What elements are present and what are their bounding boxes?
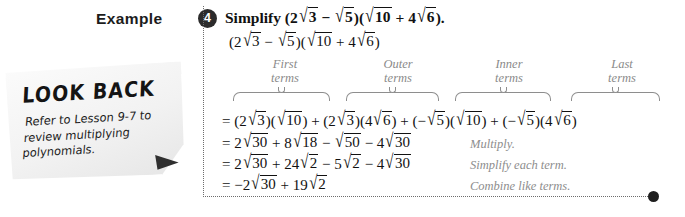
s3-24: 24 [284,156,299,172]
s3-4: 4 [377,156,385,172]
example-content: Simplify (2√3 − √5)(√10 + 4√6). (2√3 − √… [222,0,685,217]
s1-sqrt-3a: √3 [247,112,266,130]
foil-outer-line1: Outer [383,57,412,71]
s2-sqrt-30b: √30 [384,134,411,152]
brace-outer-terms [346,92,439,101]
minus-1: − [321,9,330,26]
problem-statement: Simplify (2√3 − √5)(√10 + 4√6). [225,8,445,27]
foil-label-last: Last terms [585,58,659,85]
foil-inner-line2: terms [472,72,546,86]
sqrt-5-title: √5 [334,8,354,27]
s2-4: 4 [377,135,385,151]
eq-4: = [222,177,230,193]
sqrt-10-title: √10 [364,8,391,27]
s3-sqrt-30a: √30 [242,155,269,173]
plus-8: + [281,177,289,193]
sqrt-6-restate: √6 [356,33,375,51]
s3-5: 5 [334,156,342,172]
coef-2a: 2 [290,9,298,26]
s3-2: 2 [234,156,242,172]
s1-sqrt-6b: √6 [553,112,572,130]
plus-6: + [272,135,280,151]
plus-4: + [400,113,408,129]
minus-8: − [365,156,373,172]
step-note-4: Combine like terms. [470,179,570,194]
example-page: Example 4 LOOK BACK Refer to Lesson 9-7 … [0,0,685,217]
s1-4b: 4 [545,113,553,129]
foil-label-inner: Inner terms [472,58,546,85]
foil-label-first: First terms [248,58,322,85]
s1-sqrt-5b: √5 [516,112,535,130]
s4-sqrt-2: √2 [308,176,327,194]
minus-2: − [264,34,272,50]
minus-6: − [365,135,373,151]
look-back-body: Refer to Lesson 9-7 to review multiplyin… [22,107,178,162]
step-line-1: = (2√3)(√10) + (2√3)(4√6) + (−√5)(√10) +… [222,112,577,130]
foil-label-outer: Outer terms [361,58,435,85]
plus-5: + [490,113,498,129]
eq-3: = [222,156,230,172]
brace-first-terms [233,92,330,101]
foil-outer-line2: terms [361,72,435,86]
step-note-2: Multiply. [470,137,515,152]
brace-last-terms [571,92,660,101]
sqrt-3-title: √3 [298,8,318,27]
s1-sqrt-5a: √5 [426,112,445,130]
s1-sqrt-3b: √3 [336,112,355,130]
foil-last-line2: terms [585,72,659,86]
s4-sqrt-30: √30 [250,176,277,194]
rparen-10: ) [482,113,487,129]
brace-inner-terms [455,92,551,101]
plus-1: + [396,9,405,26]
s2-8: 8 [284,135,292,151]
s2-2: 2 [234,135,242,151]
foil-first-line1: First [273,57,297,71]
step-line-3: = 2√30 + 24√2 − 5√2 − 4√30 [222,155,411,173]
problem-restated: (2√3 − √5)(√10 + 4√6) [229,33,380,51]
s1-4: 4 [365,113,373,129]
s1-sqrt-10a: √10 [276,112,303,130]
example-number-badge: 4 [198,9,217,28]
step-note-3: Simplify each term. [470,158,567,173]
coef-2b: 2 [234,34,242,50]
rparen-12: ) [572,113,577,129]
s1-sqrt-10b: √10 [455,112,482,130]
minus-5: − [322,135,330,151]
simplify-word: Simplify [225,9,285,26]
s1-2b: 2 [328,113,336,129]
look-back-note: LOOK BACK Refer to Lesson 9-7 to review … [5,61,187,182]
s1-2: 2 [239,113,247,129]
plus-7: + [272,156,280,172]
s2-sqrt-18: √18 [292,134,319,152]
minus-3: − [417,113,425,129]
coef-4b: 4 [348,34,356,50]
foil-last-line1: Last [611,57,633,71]
minus-4: − [508,113,516,129]
step-line-4: = −2√30 + 19√2 [222,176,327,194]
example-label: Example [96,10,163,28]
s4-19: 19 [293,177,308,193]
note-corner-curl-icon [155,152,179,170]
period: . [441,9,445,26]
minus-7: − [322,156,330,172]
sqrt-5-restate: √5 [277,33,296,51]
foil-first-line2: terms [248,72,322,86]
plus-3: + [311,113,319,129]
vertical-dotted-rule [203,6,204,197]
s4-neg2: −2 [234,177,250,193]
eq-2: = [222,135,230,151]
sqrt-6-title: √6 [416,8,436,27]
plus-2: + [336,34,344,50]
s2-sqrt-30a: √30 [242,134,269,152]
eq-1: = [222,113,230,129]
foil-inner-line1: Inner [495,57,522,71]
s1-sqrt-6a: √6 [372,112,391,130]
sqrt-3-restate: √3 [242,33,261,51]
s3-sqrt-2a: √2 [299,155,318,173]
s2-sqrt-50: √50 [334,134,361,152]
rparen-4: ) [375,34,380,50]
step-line-2: = 2√30 + 8√18 − √50 − 4√30 [222,134,411,152]
sqrt-10-restate: √10 [306,33,333,51]
rparen-8: ) [392,113,397,129]
coef-4a: 4 [408,9,416,26]
